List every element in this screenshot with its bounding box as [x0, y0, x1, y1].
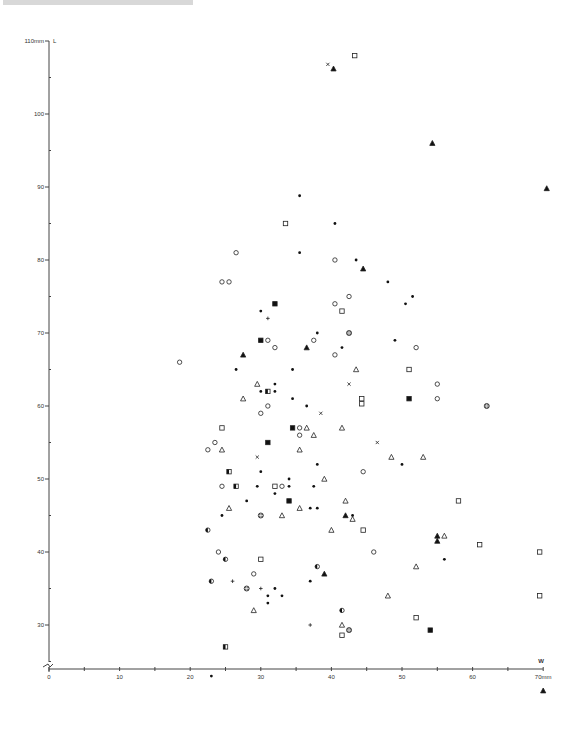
data-point-filled-triangle: [343, 513, 348, 518]
data-point-open-circle: [312, 338, 316, 342]
data-point-half-square: [234, 484, 238, 488]
data-point-dot: [316, 463, 319, 466]
data-point-filled-triangle: [304, 345, 309, 350]
data-point-open-circle: [347, 294, 351, 298]
data-point-dot: [394, 339, 397, 342]
y-tick-label: 90: [37, 184, 44, 190]
y-tick-label: 80: [37, 257, 44, 263]
data-point-plus: [266, 317, 270, 321]
data-point-open-circle: [177, 360, 181, 364]
data-point-half-square: [227, 470, 231, 474]
data-point-open-square: [537, 594, 541, 598]
data-point-filled-square: [259, 338, 263, 342]
data-point-cross: [319, 412, 322, 415]
data-point-open-triangle: [354, 367, 359, 372]
data-point-circle-plus: [244, 586, 249, 591]
data-point-open-circle: [297, 426, 301, 430]
x-tick-label: 20: [187, 674, 194, 680]
data-point-open-circle: [266, 404, 270, 408]
axis-break-icon: [43, 664, 53, 667]
data-point-open-triangle: [350, 516, 355, 521]
y-tick-label: 40: [37, 549, 44, 555]
data-point-open-circle: [259, 411, 263, 415]
data-point-open-square: [456, 499, 460, 503]
data-point-dot: [298, 251, 301, 254]
data-point-open-triangle: [322, 476, 327, 481]
data-point-half-circle: [223, 557, 227, 561]
y-tick-label: 60: [37, 403, 44, 409]
data-point-dot: [316, 507, 319, 510]
data-point-open-square: [407, 367, 411, 371]
data-point-open-circle: [333, 353, 337, 357]
data-point-open-triangle: [297, 447, 302, 452]
x-axis-title: W: [538, 658, 544, 664]
data-point-dot: [305, 405, 308, 408]
data-point-filled-triangle: [435, 538, 440, 543]
data-point-open-circle: [435, 397, 439, 401]
data-point-dot: [221, 514, 224, 517]
data-point-filled-triangle: [541, 688, 546, 693]
data-point-open-circle: [280, 484, 284, 488]
data-point-half-circle: [315, 564, 319, 568]
data-point-open-circle: [213, 440, 217, 444]
data-point-dot: [245, 500, 248, 503]
data-point-dot: [355, 259, 358, 262]
data-point-open-circle: [220, 280, 224, 284]
data-point-open-square: [220, 426, 224, 430]
data-point-dot: [386, 281, 389, 284]
data-point-open-square: [537, 550, 541, 554]
data-point-dot: [259, 390, 262, 393]
data-point-open-circle: [227, 280, 231, 284]
data-point-dot: [291, 368, 294, 371]
data-point-dot: [443, 558, 446, 561]
data-point-open-circle: [414, 345, 418, 349]
data-point-open-square: [340, 633, 344, 637]
data-point-filled-triangle: [331, 66, 336, 71]
data-point-open-triangle: [343, 498, 348, 503]
data-point-open-triangle: [297, 506, 302, 511]
x-tick-label: 40: [328, 674, 335, 680]
data-point-open-circle: [252, 572, 256, 576]
data-point-half-square: [223, 645, 227, 649]
x-tick-label: 60: [469, 674, 476, 680]
data-point-dot: [274, 587, 277, 590]
data-point-open-square: [340, 309, 344, 313]
data-point-dot: [266, 602, 269, 605]
data-point-open-triangle: [421, 454, 426, 459]
data-point-filled-square: [290, 426, 294, 430]
data-point-filled-triangle: [361, 266, 366, 271]
y-tick-label: 100: [34, 111, 45, 117]
data-point-dot: [274, 383, 277, 386]
data-point-open-square: [360, 397, 364, 401]
data-point-dot: [274, 390, 277, 393]
data-point-open-triangle: [311, 433, 316, 438]
data-point-open-circle: [333, 302, 337, 306]
data-point-open-triangle: [329, 527, 334, 532]
x-tick-label: 10: [116, 674, 123, 680]
data-point-open-circle: [220, 484, 224, 488]
data-point-dot: [404, 302, 407, 305]
data-point-filled-triangle: [544, 186, 549, 191]
data-point-open-triangle: [226, 506, 231, 511]
data-point-dot: [288, 485, 291, 488]
data-point-filled-square: [407, 397, 411, 401]
data-point-filled-triangle: [241, 352, 246, 357]
y-tick-label: 50: [37, 476, 44, 482]
data-point-dot: [288, 478, 291, 481]
data-point-dot: [334, 222, 337, 225]
data-point-dot: [274, 492, 277, 495]
data-point-dot: [309, 507, 312, 510]
data-point-open-square: [414, 616, 418, 620]
x-tick-label: 30: [257, 674, 264, 680]
data-point-open-circle: [266, 338, 270, 342]
data-point-open-triangle: [251, 608, 256, 613]
data-point-open-circle: [435, 382, 439, 386]
data-point-open-circle: [206, 448, 210, 452]
data-point-dot: [210, 675, 213, 678]
data-point-open-circle: [234, 251, 238, 255]
data-point-cross: [326, 63, 329, 66]
data-point-dot: [259, 310, 262, 313]
data-point-circle-plus: [347, 628, 352, 633]
x-tick-label: 70mm: [535, 674, 552, 680]
data-point-dot: [341, 346, 344, 349]
